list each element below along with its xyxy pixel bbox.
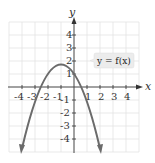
svg-text:-3: -3 bbox=[60, 120, 70, 131]
svg-text:4: 4 bbox=[66, 29, 72, 40]
y-axis-label: y bbox=[68, 6, 76, 19]
function-label: y = f(x) bbox=[90, 53, 134, 68]
svg-text:-4: -4 bbox=[14, 91, 24, 102]
axes bbox=[8, 20, 140, 153]
svg-text:-2: -2 bbox=[40, 91, 50, 102]
graph: x y -4 -3 -2 -1 1 2 3 4 4 3 2 1 -1 -2 -3… bbox=[0, 0, 155, 163]
right-curve-arrow-icon bbox=[97, 144, 103, 154]
svg-text:3: 3 bbox=[111, 91, 117, 102]
x-axis-arrow-icon bbox=[136, 85, 143, 90]
svg-text:-1: -1 bbox=[60, 94, 70, 105]
svg-text:y = f(x): y = f(x) bbox=[96, 56, 131, 66]
left-curve-arrow-icon bbox=[19, 144, 25, 154]
svg-text:-2: -2 bbox=[60, 107, 70, 118]
svg-text:4: 4 bbox=[124, 91, 130, 102]
svg-text:-4: -4 bbox=[60, 133, 70, 144]
x-axis-label: x bbox=[145, 80, 152, 93]
svg-text:2: 2 bbox=[66, 55, 72, 66]
svg-text:2: 2 bbox=[98, 91, 104, 102]
svg-text:3: 3 bbox=[66, 42, 72, 53]
